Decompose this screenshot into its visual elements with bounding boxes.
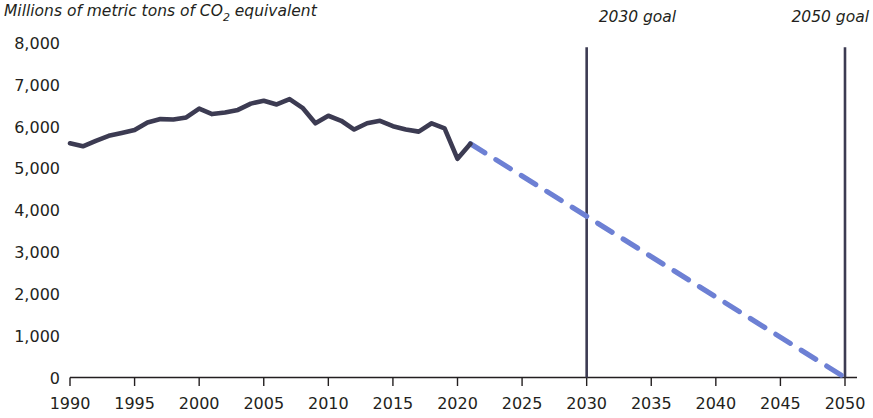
goal-label-2030: 2030 goal (599, 8, 677, 26)
x-axis-tick-label: 2035 (631, 394, 672, 413)
y-axis-tick-label: 6,000 (14, 118, 60, 137)
x-axis-tick-label: 2015 (373, 394, 414, 413)
x-axis-tick-label: 2030 (566, 394, 607, 413)
x-axis-tick-label: 1990 (50, 394, 91, 413)
goal-marker-labels: 2030 goal2050 goal (599, 8, 870, 26)
x-axis-tick-label: 2000 (179, 394, 220, 413)
projection-series-line (470, 144, 845, 378)
y-axis-tick-label: 1,000 (14, 327, 60, 346)
y-axis-tick-label: 0 (50, 369, 60, 388)
y-axis-tick-label: 3,000 (14, 243, 60, 262)
y-axis-tick-label: 2,000 (14, 285, 60, 304)
x-axis-tick-label: 2050 (825, 394, 866, 413)
y-axis-tick-labels: 01,0002,0003,0004,0005,0006,0007,0008,00… (14, 34, 60, 388)
x-axis-tick-label: 2040 (695, 394, 736, 413)
chart-canvas: Millions of metric tons of CO2 equivalen… (0, 0, 873, 418)
y-axis-tick-label: 7,000 (14, 76, 60, 95)
historical-series-line (70, 99, 470, 159)
goal-label-2050: 2050 goal (792, 8, 870, 26)
y-axis-unit-title: Millions of metric tons of CO2 equivalen… (4, 2, 318, 24)
y-axis-tick-label: 8,000 (14, 34, 60, 53)
x-axis-tick-labels: 1990199520002005201020152020202520302035… (50, 394, 866, 413)
x-axis-tick-marks (70, 378, 845, 387)
x-axis-tick-label: 2025 (502, 394, 543, 413)
x-axis-tick-label: 2045 (760, 394, 801, 413)
x-axis-tick-label: 2010 (308, 394, 349, 413)
goal-marker-lines (587, 47, 845, 377)
x-axis-tick-label: 1995 (114, 394, 155, 413)
y-axis-tick-label: 5,000 (14, 159, 60, 178)
emissions-chart: Millions of metric tons of CO2 equivalen… (0, 0, 873, 418)
x-axis-tick-label: 2020 (437, 394, 478, 413)
y-axis-tick-label: 4,000 (14, 201, 60, 220)
x-axis-tick-label: 2005 (243, 394, 284, 413)
